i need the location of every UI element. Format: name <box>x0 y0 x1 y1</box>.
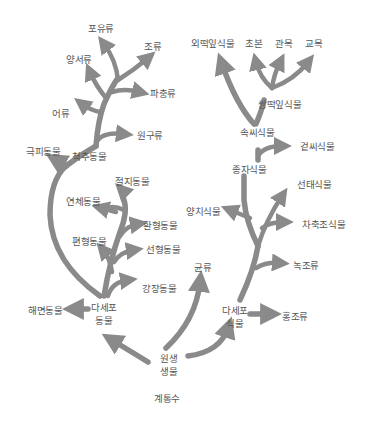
label-cnidarian: 강장동물 <box>142 283 177 295</box>
branch-mammal <box>104 44 118 80</box>
multicellular-plants-line1: 다세포 <box>222 304 248 317</box>
branch-reptile <box>112 90 140 92</box>
branch-protochordate <box>98 134 124 140</box>
branch-fish <box>82 104 100 112</box>
label-nematode: 선형동물 <box>146 244 181 256</box>
label-arthropod: 절지동물 <box>115 176 150 188</box>
branch-root-to-animals <box>112 340 148 362</box>
label-flatworm: 편형동물 <box>72 236 107 248</box>
label-fern: 양치식물 <box>186 206 221 218</box>
label-sponge: 해면동물 <box>28 305 63 317</box>
branch-bird <box>118 58 148 80</box>
label-mammal: 포유류 <box>88 23 114 35</box>
label-fungi: 균류 <box>194 262 211 274</box>
branch-cnidarian <box>108 280 128 296</box>
label-shrub: 관목 <box>275 38 292 50</box>
label-annelid: 환형동물 <box>143 220 178 232</box>
label-bird: 조류 <box>144 41 161 53</box>
label-multicellular-plants: 다세포 식물 <box>222 304 248 330</box>
label-multicellular-animals: 다세포 동물 <box>91 301 117 327</box>
label-seed-plant: 종자식물 <box>232 164 267 176</box>
multicellular-animals-line2: 동물 <box>91 314 117 327</box>
branch-gymnosperm <box>258 146 282 156</box>
label-tree: 교목 <box>305 38 322 50</box>
root-label-line2: 생물 <box>160 365 177 378</box>
label-mollusc: 연체동물 <box>66 196 101 208</box>
phylogenetic-tree-diagram <box>0 0 366 429</box>
label-bryophyte: 선태식물 <box>297 179 332 191</box>
label-fish: 어류 <box>52 108 69 120</box>
label-amphibian: 양서류 <box>66 54 92 66</box>
label-reptile: 파충류 <box>150 88 176 100</box>
label-monocot: 외떡잎식물 <box>191 38 235 50</box>
label-red-algae: 홍조류 <box>282 311 308 323</box>
label-green-algae: 녹조류 <box>293 260 319 272</box>
branch-nematode <box>114 250 134 262</box>
branch-plant-stem <box>240 246 258 300</box>
branch-vascular <box>244 176 258 246</box>
branch-root-to-plants <box>188 328 228 356</box>
label-dicot: 쌍떡잎식물 <box>258 99 302 111</box>
root-protist-label: 원생 생물 <box>160 352 177 378</box>
label-charophyte: 차축조식물 <box>302 219 346 231</box>
branch-deuterostome <box>50 166 100 296</box>
branch-amphibian <box>90 72 106 98</box>
label-echinoderm: 극피동물 <box>26 146 61 158</box>
label-gymnosperm: 겉씨식물 <box>300 141 335 153</box>
multicellular-plants-line2: 식물 <box>222 317 248 330</box>
multicellular-animals-line1: 다세포 <box>91 301 117 314</box>
branch-herb <box>256 62 272 88</box>
diagram-title: 계통수 <box>154 393 180 405</box>
branch-green-algae <box>256 263 280 268</box>
label-herb: 초본 <box>245 38 262 50</box>
label-protochordate: 원구류 <box>137 130 163 142</box>
label-vertebrate: 척추동물 <box>72 151 107 163</box>
root-label-line1: 원생 <box>160 352 177 365</box>
branch-monocot <box>222 64 254 124</box>
label-angiosperm: 속씨식물 <box>240 127 275 139</box>
branch-arthropod <box>122 190 124 202</box>
